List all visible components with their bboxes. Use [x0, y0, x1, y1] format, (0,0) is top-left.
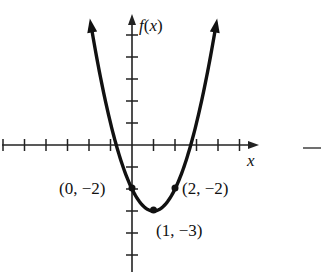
point-2-neg2: [172, 185, 179, 192]
y-axis-arrow-icon: [128, 14, 136, 25]
x-axis: [2, 139, 259, 151]
x-axis-arrow-icon: [248, 141, 259, 149]
point-label-0-neg2: (0, −2): [59, 179, 105, 198]
x-axis-label: x: [246, 151, 255, 170]
curve-arrow-right-icon: [210, 19, 220, 34]
point-label-1-neg3: (1, −3): [156, 221, 202, 240]
point-0-neg2: [129, 185, 136, 192]
y-axis: [126, 14, 138, 272]
point-label-2-neg2: (2, −2): [182, 179, 228, 198]
point-1-neg3: [150, 207, 157, 214]
y-axis-label: f(x): [139, 16, 163, 35]
parabola-graph: x f(x) (0, −2) (2, −2) (1, −3): [0, 0, 321, 274]
curve-arrow-left-icon: [87, 19, 97, 34]
